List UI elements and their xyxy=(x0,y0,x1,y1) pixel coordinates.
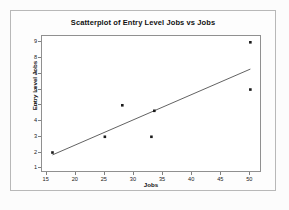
x-tick-mark xyxy=(46,172,47,175)
y-tick-label: 6 xyxy=(27,86,37,92)
scatter-point xyxy=(249,41,252,44)
y-tick-label: 9 xyxy=(27,38,37,44)
x-axis-label: Jobs xyxy=(41,181,261,188)
scatter-point xyxy=(249,88,252,91)
scatter-point xyxy=(51,151,54,154)
x-tick-mark xyxy=(133,172,134,175)
regression-line xyxy=(52,69,250,155)
chart-title: Scatterplot of Entry Level Jobs vs Jobs xyxy=(10,18,276,27)
y-tick-label: 2 xyxy=(27,149,37,155)
y-tick-mark xyxy=(38,57,41,58)
x-tick-mark xyxy=(220,172,221,175)
x-tick-mark xyxy=(162,172,163,175)
figure-canvas: Scatterplot of Entry Level Jobs vs Jobs … xyxy=(0,0,289,210)
y-tick-mark xyxy=(38,167,41,168)
fit-line xyxy=(52,69,250,155)
scatter-point xyxy=(121,104,124,107)
y-tick-mark xyxy=(38,136,41,137)
y-tick-mark xyxy=(38,120,41,121)
y-tick-label: 5 xyxy=(27,101,37,107)
scatter-point xyxy=(153,109,156,112)
y-tick-label: 1 xyxy=(27,164,37,170)
y-tick-label: 4 xyxy=(27,117,37,123)
y-tick-mark xyxy=(38,104,41,105)
scatter-point xyxy=(150,135,153,138)
y-tick-mark xyxy=(38,73,41,74)
x-tick-mark xyxy=(104,172,105,175)
y-tick-mark xyxy=(38,89,41,90)
y-tick-mark xyxy=(38,41,41,42)
x-tick-mark xyxy=(191,172,192,175)
x-tick-mark xyxy=(249,172,250,175)
plot-area xyxy=(41,35,261,172)
y-tick-mark xyxy=(38,152,41,153)
x-tick-mark xyxy=(75,172,76,175)
y-tick-label: 3 xyxy=(27,133,37,139)
scatter-point xyxy=(104,135,107,138)
y-tick-label: 7 xyxy=(27,70,37,76)
plot-svg xyxy=(42,36,262,173)
y-tick-label: 8 xyxy=(27,54,37,60)
scatter-points-group xyxy=(51,41,251,154)
